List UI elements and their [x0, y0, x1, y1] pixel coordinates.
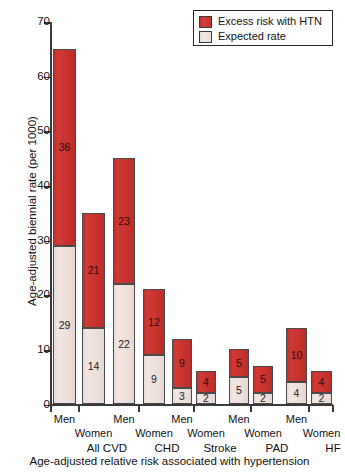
legend-swatch-expected-rate	[199, 31, 212, 43]
bar-segment-expected: 5	[229, 377, 249, 404]
bar-segment-excess: 4	[311, 371, 332, 393]
y-tick-label-20: 20	[8, 289, 50, 301]
y-tick-label-50: 50	[8, 125, 50, 137]
bar-value-excess: 5	[236, 358, 242, 369]
bar-all-cvd-men: 3629	[53, 49, 76, 404]
bar-value-expected: 4	[294, 388, 300, 399]
legend-item-excess-risk: Excess risk with HTN	[199, 15, 322, 28]
bar-segment-expected: 2	[196, 393, 216, 404]
y-tick-label-10: 10	[8, 344, 50, 356]
bar-segment-excess: 10	[286, 328, 307, 383]
bar-value-expected: 2	[260, 393, 266, 404]
bar-value-expected: 22	[118, 339, 130, 350]
bar-value-excess: 23	[118, 216, 130, 227]
legend-label-expected-rate: Expected rate	[218, 31, 286, 42]
bar-hf-women: 42	[311, 371, 332, 404]
x-label-stroke-men: Men	[152, 414, 212, 425]
bar-value-expected: 29	[59, 320, 71, 331]
x-axis-line	[50, 404, 333, 406]
bar-value-excess: 9	[179, 358, 185, 369]
bar-segment-expected: 4	[286, 382, 307, 404]
bar-stroke-men: 93	[172, 339, 192, 404]
y-tick-label-0: 0	[8, 399, 50, 411]
bar-segment-expected: 2	[253, 393, 273, 404]
x-label-hf-men: Men	[267, 414, 327, 425]
bar-stroke-women: 42	[196, 371, 216, 404]
x-tick-all-cvd	[78, 405, 80, 412]
bar-value-expected: 9	[151, 374, 157, 385]
x-tick-pad	[250, 405, 252, 412]
bar-segment-excess: 4	[196, 371, 216, 393]
bar-segment-expected: 14	[82, 328, 105, 404]
bar-segment-excess: 23	[113, 158, 135, 284]
bar-value-excess: 21	[88, 265, 100, 276]
bar-value-expected: 2	[319, 393, 325, 404]
chart-legend: Excess risk with HTN Expected rate	[193, 10, 333, 46]
bar-value-excess: 5	[260, 374, 266, 385]
y-tick-label-70: 70	[8, 16, 50, 28]
bar-value-expected: 2	[203, 393, 209, 404]
legend-item-expected-rate: Expected rate	[199, 30, 286, 43]
x-group-label-hf: HF	[293, 443, 345, 455]
x-label-stroke-women: Women	[176, 428, 236, 439]
x-tick-chd	[138, 405, 140, 412]
bar-pad-men: 55	[229, 349, 249, 404]
bar-segment-excess: 12	[143, 289, 165, 354]
x-label-pad-men: Men	[209, 414, 269, 425]
bar-value-expected: 14	[88, 361, 100, 372]
chart-caption: Age-adjusted relative risk associated wi…	[0, 455, 339, 467]
bar-segment-expected: 3	[172, 388, 192, 404]
bar-segment-expected: 9	[143, 355, 165, 404]
x-label-chd-women: Women	[124, 428, 184, 439]
y-axis-line	[50, 22, 52, 405]
bar-segment-excess: 21	[82, 213, 105, 328]
bar-value-expected: 5	[236, 385, 242, 396]
bar-value-excess: 4	[319, 377, 325, 388]
y-tick-label-40: 40	[8, 180, 50, 192]
x-tick-edge-1	[332, 405, 334, 412]
x-label-chd-men: Men	[94, 414, 154, 425]
legend-swatch-excess-risk	[199, 16, 212, 28]
x-tick-edge-0	[50, 405, 52, 412]
y-tick-label-60: 60	[8, 71, 50, 83]
bar-segment-excess: 9	[172, 339, 192, 388]
bar-value-excess: 12	[148, 317, 160, 328]
bar-segment-expected: 2	[311, 393, 332, 404]
bar-chd-women: 129	[143, 289, 165, 404]
bar-hf-men: 104	[286, 328, 307, 404]
bar-value-excess: 10	[291, 350, 303, 361]
bar-value-excess: 36	[59, 142, 71, 153]
bar-segment-excess: 5	[253, 366, 273, 393]
x-label-pad-women: Women	[233, 428, 293, 439]
legend-label-excess-risk: Excess risk with HTN	[218, 16, 322, 27]
bar-all-cvd-women: 2114	[82, 213, 105, 404]
x-tick-hf	[308, 405, 310, 412]
x-label-all-cvd-men: Men	[35, 414, 95, 425]
x-label-all-cvd-women: Women	[64, 428, 124, 439]
bar-value-expected: 3	[179, 391, 185, 402]
bar-chd-men: 2322	[113, 158, 135, 404]
bar-segment-expected: 22	[113, 284, 135, 404]
y-tick-label-30: 30	[8, 235, 50, 247]
bar-segment-excess: 36	[53, 49, 76, 245]
bar-value-excess: 4	[203, 377, 209, 388]
bar-segment-excess: 5	[229, 349, 249, 376]
bar-segment-expected: 29	[53, 246, 76, 404]
x-label-hf-women: Women	[292, 428, 345, 439]
bar-pad-women: 52	[253, 366, 273, 404]
x-tick-stroke	[193, 405, 195, 412]
